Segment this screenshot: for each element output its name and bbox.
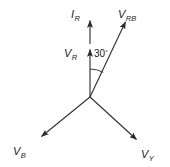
angle-value: 30 [94,48,106,59]
angle-arc-30 [90,69,103,72]
vector-label-vy: VY [141,148,155,163]
vector-label-vrb-sub: RB [126,14,136,23]
vector-line-vy [90,97,137,140]
vector-line-vrb [90,22,126,97]
vector-label-ir-sub: R [75,14,81,23]
vector-label-vb: VB [13,145,26,160]
phasor-diagram-canvas: IR VR VRB VB VY 30° [0,0,170,167]
vector-label-vrb: VRB [118,8,136,23]
vector-line-vb [42,97,91,137]
angle-label-30: 30° [94,48,108,59]
vector-label-vy-sub: Y [149,154,155,163]
vector-label-ir: IR [71,8,81,23]
vector-label-vb-sub: B [21,151,26,160]
degree-symbol-icon: ° [105,49,108,55]
phasor-diagram: IR VR VRB VB VY 30° [0,0,170,167]
vector-label-vr-sub: R [72,53,78,62]
vector-label-vr: VR [64,47,78,62]
